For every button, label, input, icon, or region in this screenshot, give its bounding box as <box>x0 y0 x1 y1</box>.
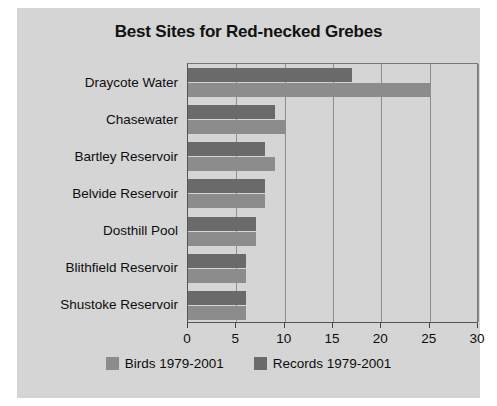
bar <box>188 120 285 134</box>
bar <box>188 269 246 283</box>
legend-swatch-icon <box>106 357 119 370</box>
x-tick-label: 0 <box>183 331 191 346</box>
bar-group <box>188 250 477 287</box>
bar <box>188 217 256 231</box>
bar-group <box>188 101 477 138</box>
x-tick-label: 5 <box>232 331 240 346</box>
bar <box>188 179 265 193</box>
legend-entry: Birds 1979-2001 <box>106 356 224 371</box>
x-tick-label: 20 <box>373 331 388 346</box>
bar-group <box>188 64 477 101</box>
y-axis-label: Draycote Water <box>85 74 178 89</box>
chart-title: Best Sites for Red-necked Grebes <box>17 22 480 42</box>
x-tick-mark <box>332 323 333 328</box>
bar <box>188 254 246 268</box>
bar <box>188 157 275 171</box>
x-tick-mark <box>235 323 236 328</box>
x-tick-label: 15 <box>324 331 339 346</box>
bar-group <box>188 287 477 324</box>
x-tick-label: 25 <box>421 331 436 346</box>
legend-swatch-icon <box>254 357 267 370</box>
x-tick-mark <box>187 323 188 328</box>
bar-group <box>188 138 477 175</box>
bar-group <box>188 213 477 250</box>
y-axis-category-labels: Draycote WaterChasewaterBartley Reservoi… <box>17 63 183 323</box>
bar <box>188 83 430 97</box>
chart-figure: Best Sites for Red-necked Grebes Draycot… <box>17 8 480 398</box>
legend-label: Records 1979-2001 <box>273 356 392 371</box>
x-tick-label: 10 <box>276 331 291 346</box>
legend-label: Birds 1979-2001 <box>125 356 224 371</box>
bar <box>188 105 275 119</box>
y-axis-label: Shustoke Reservoir <box>60 297 178 312</box>
y-axis-label: Blithfield Reservoir <box>65 260 178 275</box>
gridline-x-30 <box>478 64 479 322</box>
chart-legend: Birds 1979-2001Records 1979-2001 <box>17 356 480 371</box>
bar <box>188 232 256 246</box>
x-tick-mark <box>429 323 430 328</box>
x-tick-mark <box>284 323 285 328</box>
bar <box>188 291 246 305</box>
x-tick-mark <box>477 323 478 328</box>
legend-entry: Records 1979-2001 <box>254 356 392 371</box>
bar-group <box>188 175 477 212</box>
bar <box>188 142 265 156</box>
bar <box>188 306 246 320</box>
bar <box>188 68 352 82</box>
x-tick-label: 30 <box>469 331 484 346</box>
plot-area <box>187 63 478 323</box>
y-axis-label: Bartley Reservoir <box>74 148 178 163</box>
bar <box>188 194 265 208</box>
y-axis-label: Chasewater <box>106 111 178 126</box>
x-tick-mark <box>380 323 381 328</box>
y-axis-label: Belvide Reservoir <box>72 186 178 201</box>
y-axis-label: Dosthill Pool <box>103 223 178 238</box>
